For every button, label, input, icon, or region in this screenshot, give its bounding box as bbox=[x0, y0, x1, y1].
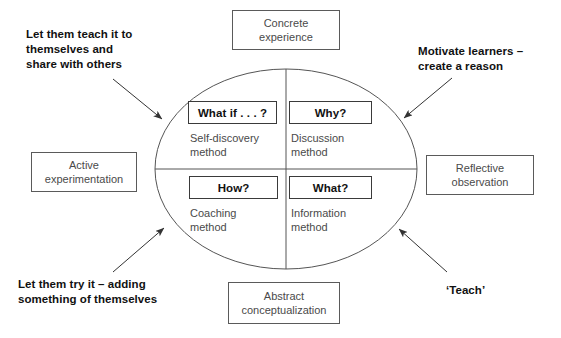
method-label-discussion: Discussion method bbox=[291, 131, 381, 159]
question-box-how: How? bbox=[189, 176, 278, 199]
method-label-information: Information method bbox=[291, 206, 383, 234]
arrow-teach-themselves bbox=[113, 79, 162, 119]
arrow-motivate bbox=[404, 78, 452, 118]
stage-box-reflective-observation: Reflective observation bbox=[426, 155, 534, 195]
stage-box-concrete-experience: Concrete experience bbox=[232, 10, 340, 50]
callout-teach-themselves: Let them teach it to themselves and shar… bbox=[26, 27, 186, 72]
stage-box-abstract-conceptualization: Abstract conceptualization bbox=[228, 282, 340, 324]
callout-let-them-try-it: Let them try it – adding something of th… bbox=[18, 277, 203, 307]
stage-box-active-experimentation: Active experimentation bbox=[31, 152, 137, 192]
question-box-why: Why? bbox=[289, 101, 372, 124]
arrow-teach bbox=[399, 229, 447, 272]
question-box-what-if: What if . . . ? bbox=[188, 101, 277, 124]
callout-teach: ‘Teach’ bbox=[446, 283, 516, 298]
arrow-try-it bbox=[113, 228, 164, 272]
question-box-what: What? bbox=[289, 176, 372, 199]
method-label-self-discovery: Self-discovery method bbox=[190, 131, 285, 159]
method-label-coaching: Coaching method bbox=[190, 206, 285, 234]
callout-motivate-learners: Motivate learners – create a reason bbox=[418, 44, 558, 74]
diagram-canvas: Concrete experience Reflective observati… bbox=[0, 0, 561, 338]
